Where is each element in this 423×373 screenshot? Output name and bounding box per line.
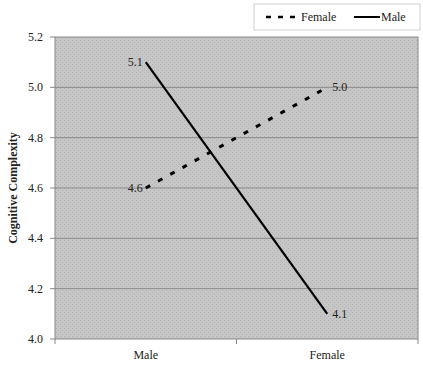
legend-female-label: Female (301, 10, 336, 24)
x-axis-ticks: MaleFemale (55, 339, 418, 362)
data-label-male: 5.1 (128, 55, 143, 69)
data-label-male: 4.1 (332, 307, 347, 321)
y-tick-label: 4.2 (28, 282, 43, 296)
data-label-female: 4.6 (128, 181, 143, 195)
y-tick-label: 5.2 (28, 30, 43, 44)
data-label-female: 5.0 (332, 80, 347, 94)
y-tick-label: 4.6 (28, 181, 43, 195)
legend: Female Male (254, 4, 420, 30)
y-tick-label: 5.0 (28, 80, 43, 94)
legend-male-label: Male (381, 10, 406, 24)
y-axis-title: Cognitive Complexity (6, 132, 20, 244)
x-tick-label: Female (310, 348, 345, 362)
y-axis-ticks: 4.04.24.44.64.85.05.2 (28, 30, 55, 346)
y-tick-label: 4.0 (28, 332, 43, 346)
y-tick-label: 4.8 (28, 131, 43, 145)
y-tick-label: 4.4 (28, 231, 43, 245)
x-tick-label: Male (133, 348, 158, 362)
chart: Female Male 4.04.24.44.64.85.05.2 MaleFe… (0, 0, 423, 373)
